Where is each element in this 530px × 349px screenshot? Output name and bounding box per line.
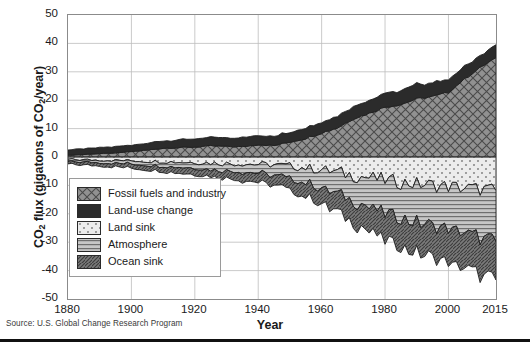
y-tick-label: -20 [22, 207, 58, 219]
x-tick-label: 1960 [291, 303, 351, 315]
y-tick-label: 50 [22, 8, 58, 20]
y-tick-label: 40 [22, 36, 58, 48]
legend-item[interactable]: Land sink [77, 219, 213, 236]
y-tick-label: -40 [22, 264, 58, 276]
x-tick-label: 1920 [164, 303, 224, 315]
x-tick-label: 1940 [227, 303, 287, 315]
legend-item[interactable]: Fossil fuels and industry [77, 185, 213, 202]
legend-item[interactable]: Atmosphere [77, 236, 213, 253]
legend-label: Land sink [108, 222, 155, 233]
y-tick-label: 0 [22, 150, 58, 162]
legend-swatch [77, 255, 101, 269]
legend-swatch [77, 187, 101, 201]
co2-flux-figure: CO2 flux (gigatons of CO2/year) 50403020… [0, 0, 530, 349]
legend-label: Fossil fuels and industry [108, 188, 226, 199]
y-tick-label: 10 [22, 122, 58, 134]
chart-legend: Fossil fuels and industryLand-use change… [69, 178, 221, 277]
legend-label: Land-use change [108, 205, 193, 216]
legend-swatch [77, 238, 101, 252]
y-tick-label: -30 [22, 235, 58, 247]
legend-label: Atmosphere [108, 239, 167, 250]
legend-label: Ocean sink [108, 256, 163, 267]
bottom-rule [0, 339, 530, 342]
legend-item[interactable]: Ocean sink [77, 253, 213, 270]
legend-item[interactable]: Land-use change [77, 202, 213, 219]
x-axis-title-text: Year [257, 318, 283, 332]
x-tick-label: 1980 [354, 303, 414, 315]
x-tick-label: 2015 [465, 303, 525, 315]
legend-swatch [77, 204, 101, 218]
x-tick-label: 1900 [100, 303, 160, 315]
legend-swatch [77, 221, 101, 235]
y-tick-label: 30 [22, 65, 58, 77]
y-tick-label: 20 [22, 93, 58, 105]
x-tick-label: 1880 [37, 303, 97, 315]
source-note: Source: U.S. Global Change Research Prog… [6, 319, 182, 328]
y-tick-label: -50 [22, 292, 58, 304]
y-tick-label: -10 [22, 178, 58, 190]
